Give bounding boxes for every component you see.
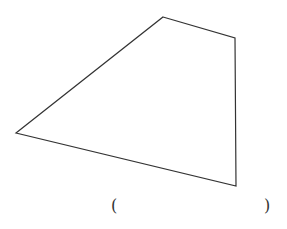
answer-open-paren: (: [111, 196, 117, 216]
answer-close-paren: ): [264, 196, 270, 216]
quadrilateral-figure: [0, 0, 287, 229]
answer-blank[interactable]: [124, 196, 260, 216]
quadrilateral-shape: [16, 17, 236, 186]
